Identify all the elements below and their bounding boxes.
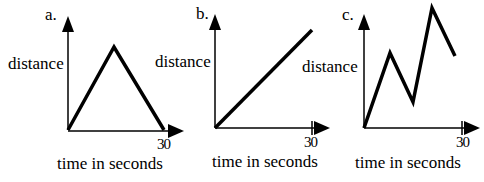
x-tick-label-b: 30	[304, 135, 317, 150]
x-tick-label-c: 30	[456, 135, 469, 150]
chart-a	[62, 16, 184, 138]
panel-label-c: c.	[342, 6, 354, 23]
data-line	[215, 30, 312, 128]
y-axis-label-a: distance	[8, 55, 64, 72]
x-axis-arrow-icon	[464, 121, 480, 135]
y-axis-label-c: distance	[302, 58, 358, 75]
x-axis-label-c: time in seconds	[355, 154, 461, 171]
panel-label-a: a.	[45, 6, 57, 23]
data-line	[364, 8, 455, 128]
x-axis-label-a: time in seconds	[57, 155, 163, 172]
data-line	[68, 47, 164, 130]
y-axis-arrow-icon	[358, 14, 370, 30]
x-axis-label-b: time in seconds	[212, 153, 318, 170]
x-axis-arrow-icon	[314, 121, 330, 135]
y-axis-arrow-icon	[209, 14, 221, 30]
y-axis-label-b: distance	[155, 53, 211, 70]
panel-label-b: b.	[196, 5, 209, 22]
x-axis-arrow-icon	[168, 124, 184, 138]
chart-c	[358, 8, 480, 135]
x-tick-label-a: 30	[157, 137, 170, 152]
y-axis-arrow-icon	[62, 16, 74, 32]
